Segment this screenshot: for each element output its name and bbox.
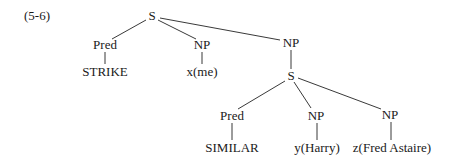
- leaf-strike: STRIKE: [82, 65, 128, 79]
- tree-edges: [0, 0, 462, 161]
- leaf-similar: SIMILAR: [205, 141, 258, 155]
- node-s-root: S: [148, 9, 155, 23]
- node-np: NP: [308, 109, 325, 123]
- edge-s2-np3: [294, 82, 311, 108]
- edge-s1-np1: [158, 20, 196, 39]
- edge-s1-pred1: [112, 20, 146, 39]
- edge-s1-np2: [160, 18, 280, 40]
- edge-s2-np4: [298, 78, 381, 109]
- leaf-z-fred-astaire: z(Fred Astaire): [353, 141, 431, 155]
- node-s-embedded: S: [287, 69, 294, 83]
- leaf-y-harry: y(Harry): [294, 141, 339, 155]
- edge-s2-pred2: [238, 81, 285, 109]
- node-np: NP: [194, 38, 211, 52]
- node-np: NP: [283, 36, 300, 50]
- node-pred: Pred: [93, 38, 117, 52]
- node-np: NP: [382, 108, 399, 122]
- node-pred: Pred: [220, 109, 244, 123]
- leaf-x-me: x(me): [186, 65, 217, 79]
